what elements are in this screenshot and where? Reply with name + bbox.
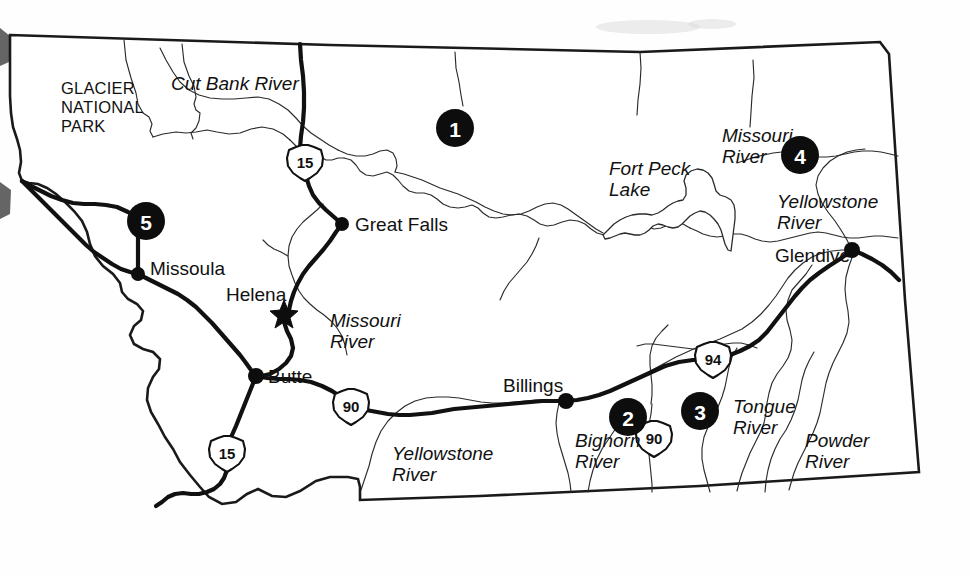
label-butte: Butte [268, 366, 312, 387]
montana-map: 15 15 90 90 94 [0, 0, 971, 576]
label-great-falls: Great Falls [355, 214, 448, 235]
label-missouri-north-line-2: River [722, 146, 767, 167]
label-missouri-north-line-1: Missouri [722, 125, 794, 146]
label-helena: Helena [226, 284, 287, 305]
label-powder-line-2: River [805, 451, 850, 472]
label-billings: Billings [503, 375, 563, 396]
label-yellowstone-east-line-2: River [777, 212, 822, 233]
marker-5[interactable]: 5 [127, 202, 165, 240]
label-glendive: Glendive [775, 245, 850, 266]
label-yellowstone-south-line-2: River [392, 464, 437, 485]
city-dot-missoula[interactable] [131, 267, 145, 281]
shield-route-number: 90 [343, 398, 360, 415]
marker-3[interactable]: 3 [681, 392, 719, 430]
label-tongue-line-1: Tongue [733, 396, 796, 417]
shield-route-number: 94 [705, 351, 722, 368]
left-edge-artifact-mid [0, 182, 11, 219]
label-fort-peck-line-1: Fort Peck [609, 158, 692, 179]
label-bighorn-line-1: Bighorn [575, 430, 641, 451]
marker-1-label: 1 [449, 118, 461, 141]
label-missouri-central-line-1: Missouri [330, 310, 402, 331]
label-bighorn-line-2: River [575, 451, 620, 472]
marker-2-label: 2 [622, 407, 634, 430]
label-yellowstone-south-line-1: Yellowstone [392, 443, 493, 464]
label-powder-line-1: Powder [805, 430, 870, 451]
label-fort-peck-line-2: Lake [609, 179, 650, 200]
marker-4-label: 4 [794, 145, 806, 168]
label-cut-bank-river: Cut Bank River [171, 73, 299, 94]
map-canvas: 15 15 90 90 94 [0, 0, 971, 576]
label-glacier-line-2: NATIONAL [61, 98, 144, 116]
label-missouri-central-line-2: River [330, 331, 375, 352]
city-dot-butte[interactable] [248, 368, 264, 384]
smudge-top [596, 20, 700, 34]
city-dot-great-falls[interactable] [335, 217, 349, 231]
smudge-top-2 [688, 19, 736, 29]
label-glacier-line-1: GLACIER [61, 79, 135, 97]
shield-route-number: 15 [297, 154, 314, 171]
left-edge-artifact-top [0, 28, 10, 66]
label-yellowstone-east-line-1: Yellowstone [777, 191, 878, 212]
label-missoula: Missoula [150, 258, 225, 279]
shield-route-number: 90 [646, 430, 663, 447]
label-glacier-line-3: PARK [61, 117, 106, 135]
marker-1[interactable]: 1 [436, 109, 474, 147]
marker-5-label: 5 [140, 211, 152, 234]
label-tongue-line-2: River [733, 417, 778, 438]
marker-3-label: 3 [694, 401, 706, 424]
shield-route-number: 15 [219, 445, 236, 462]
